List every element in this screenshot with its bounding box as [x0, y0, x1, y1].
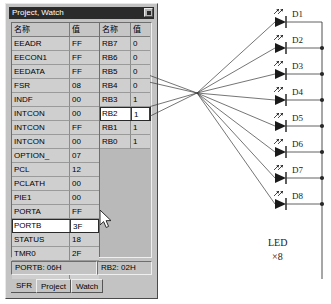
- sfr-name-cell[interactable]: INTCON: [12, 135, 70, 149]
- sfr-value-cell[interactable]: 00: [70, 177, 99, 191]
- table-row[interactable]: STATUS18: [12, 233, 99, 247]
- diode-triangle-icon: [275, 121, 286, 131]
- sfr-name-cell[interactable]: PCLATH: [12, 177, 70, 191]
- sfr-name-cell[interactable]: PCL: [12, 163, 70, 177]
- sfr-name-cell[interactable]: INTCON: [12, 107, 70, 121]
- sfr-value-cell[interactable]: FF: [70, 51, 99, 65]
- diode-triangle-icon: [275, 43, 286, 53]
- led-label-d3: D3: [292, 61, 303, 71]
- sfr-table-body: EEADRFFEECON1FFEEDATAFFFSR08INDF00INTCON…: [12, 37, 99, 289]
- window-titlebar[interactable]: Project, Watch: [9, 7, 154, 19]
- bit-value-cell[interactable]: 1: [131, 93, 150, 107]
- bit-name-cell[interactable]: RB7: [100, 37, 131, 51]
- table-row[interactable]: PIE100: [12, 191, 99, 205]
- led-label-d1: D1: [292, 9, 303, 19]
- sfr-value-cell[interactable]: 00: [70, 191, 99, 205]
- diode-triangle-icon: [275, 69, 286, 79]
- bit-name-cell[interactable]: RB4: [100, 79, 131, 93]
- sfr-value-cell[interactable]: 12: [70, 163, 99, 177]
- sfr-value-cell[interactable]: 00: [70, 93, 99, 107]
- bus-wire-left-3: [150, 93, 197, 190]
- table-row[interactable]: EECON1FF: [12, 51, 99, 65]
- led-circuit-diagram: D1D2D3D4D5D6D7D8 LED ×8: [150, 0, 331, 304]
- sfr-name-cell[interactable]: EEDATA: [12, 65, 70, 79]
- table-row[interactable]: INTCON00: [12, 107, 99, 121]
- bit-value-cell[interactable]: 1: [131, 135, 150, 149]
- bit-name-cell[interactable]: RB1: [100, 121, 131, 135]
- tab-sfr[interactable]: SFR: [11, 279, 36, 293]
- sfr-name-cell[interactable]: FSR: [12, 79, 70, 93]
- bit-value-cell[interactable]: 1: [131, 121, 150, 135]
- table-row[interactable]: PCLATH00: [12, 177, 99, 191]
- bit-name-cell[interactable]: RB0: [100, 135, 131, 149]
- table-row[interactable]: EEADRFF: [12, 37, 99, 51]
- table-row[interactable]: RB50: [100, 65, 151, 79]
- sfr-value-cell[interactable]: 00: [70, 107, 99, 121]
- window-title: Project, Watch: [9, 9, 64, 17]
- sfr-value-cell[interactable]: 18: [70, 233, 99, 247]
- table-row[interactable]: PORTB3F: [12, 219, 99, 233]
- table-row[interactable]: RB01: [100, 135, 151, 149]
- table-row[interactable]: RB40: [100, 79, 151, 93]
- sfr-value-cell[interactable]: FF: [70, 121, 99, 135]
- bit-header-value[interactable]: 值: [131, 23, 150, 37]
- table-row[interactable]: INTCONFF: [12, 121, 99, 135]
- sfr-value-cell[interactable]: 07: [70, 149, 99, 163]
- bit-value-cell[interactable]: 1: [131, 107, 150, 121]
- sfr-name-cell[interactable]: OPTION_: [12, 149, 70, 163]
- sfr-name-cell[interactable]: PORTB: [12, 219, 70, 233]
- sfr-value-cell[interactable]: 00: [70, 135, 99, 149]
- led-caption-line2: ×8: [272, 251, 283, 262]
- sfr-name-cell[interactable]: TMR0: [12, 247, 70, 261]
- bit-name-cell[interactable]: RB2: [100, 107, 131, 121]
- bit-value-cell[interactable]: 0: [131, 79, 150, 93]
- bit-name-cell[interactable]: RB6: [100, 51, 131, 65]
- table-row[interactable]: PCL12: [12, 163, 99, 177]
- table-row[interactable]: RB60: [100, 51, 151, 65]
- led-label-d5: D5: [292, 113, 303, 123]
- sfr-name-cell[interactable]: INDF: [12, 93, 70, 107]
- bit-table-header: 名称 值: [100, 23, 151, 37]
- tab-project[interactable]: Project: [36, 279, 71, 293]
- table-row[interactable]: OPTION_07: [12, 149, 99, 163]
- bit-value-cell[interactable]: 0: [131, 51, 150, 65]
- table-row[interactable]: TMR02F: [12, 247, 99, 261]
- table-row[interactable]: RB11: [100, 121, 151, 135]
- bit-header-name[interactable]: 名称: [100, 23, 131, 37]
- sfr-name-cell[interactable]: INTCON: [12, 121, 70, 135]
- table-row[interactable]: RB21: [100, 107, 151, 121]
- table-row[interactable]: RB70: [100, 37, 151, 51]
- table-row[interactable]: RB31: [100, 93, 151, 107]
- status-bar: PORTB: 06H RB2: 02H: [11, 261, 152, 275]
- table-row[interactable]: FSR08: [12, 79, 99, 93]
- diode-triangle-icon: [275, 147, 286, 157]
- sfr-value-cell[interactable]: FF: [70, 205, 99, 219]
- table-row[interactable]: EEDATAFF: [12, 65, 99, 79]
- table-row[interactable]: INTCON00: [12, 135, 99, 149]
- table-row[interactable]: INDF00: [12, 93, 99, 107]
- sfr-name-cell[interactable]: EEADR: [12, 37, 70, 51]
- sfr-value-cell[interactable]: FF: [70, 65, 99, 79]
- bit-name-cell[interactable]: RB5: [100, 65, 131, 79]
- sfr-value-cell[interactable]: 2F: [70, 247, 99, 261]
- sfr-value-cell[interactable]: 08: [70, 79, 99, 93]
- diode-triangle-icon: [275, 95, 286, 105]
- sfr-header-name[interactable]: 名称: [12, 23, 70, 37]
- wire-to-d6: [197, 93, 275, 152]
- bit-value-cell[interactable]: 0: [131, 65, 150, 79]
- sfr-value-cell[interactable]: FF: [70, 37, 99, 51]
- sfr-value-cell[interactable]: 3F: [70, 219, 99, 233]
- mouse-cursor: [100, 210, 113, 230]
- sfr-name-cell[interactable]: EECON1: [12, 51, 70, 65]
- sfr-name-cell[interactable]: PORTA: [12, 205, 70, 219]
- circuit-svg: [150, 0, 331, 304]
- tab-watch[interactable]: Watch: [71, 279, 103, 293]
- sfr-name-cell[interactable]: PIE1: [12, 191, 70, 205]
- wire-to-d3: [197, 74, 275, 93]
- sfr-header-value[interactable]: 值: [70, 23, 99, 37]
- bit-value-cell[interactable]: 0: [131, 37, 150, 51]
- table-row[interactable]: PORTAFF: [12, 205, 99, 219]
- bit-name-cell[interactable]: RB3: [100, 93, 131, 107]
- sfr-name-cell[interactable]: STATUS: [12, 233, 70, 247]
- wire-to-d2: [197, 48, 275, 93]
